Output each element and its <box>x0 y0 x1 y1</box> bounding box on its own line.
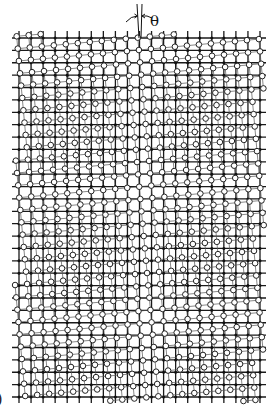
lattice-circle <box>202 240 208 246</box>
lattice-circle <box>26 32 32 38</box>
grid-node-dot <box>246 259 249 262</box>
lattice-circle <box>231 163 237 169</box>
grid-node-dot <box>78 235 81 238</box>
grid-node-dot <box>222 383 225 386</box>
lattice-circle <box>206 153 212 159</box>
grid-node-dot <box>198 136 201 139</box>
grid-node-dot <box>54 296 57 299</box>
lattice-circle <box>249 223 255 229</box>
lattice-circle <box>35 268 41 274</box>
grid-node-dot <box>42 136 45 139</box>
grid-node-dot <box>102 259 105 262</box>
lattice-circle <box>166 380 172 386</box>
grid-node-dot <box>66 210 69 213</box>
lattice-circle <box>207 165 213 171</box>
lattice-circle <box>63 178 69 184</box>
lattice-circle <box>22 393 28 399</box>
lattice-circle <box>97 150 103 156</box>
grid-node-dot <box>174 247 177 250</box>
lattice-circle <box>171 168 177 174</box>
lattice-circle <box>165 368 171 374</box>
lattice-circle <box>164 219 170 225</box>
lattice-circle <box>46 391 52 397</box>
grid-node-dot <box>186 86 189 89</box>
lattice-circle <box>259 198 265 204</box>
grid-node-dot <box>78 49 81 52</box>
grid-node-dot <box>198 358 201 361</box>
grid-node-dot <box>198 160 201 163</box>
lattice-circle <box>250 99 256 105</box>
lattice-circle <box>166 243 172 249</box>
lattice-circle <box>188 217 194 223</box>
grid-node-dot <box>102 98 105 101</box>
grid-node-dot <box>90 235 93 238</box>
grid-node-dot <box>259 98 262 101</box>
grid-node-dot <box>222 185 225 188</box>
lattice-circle <box>232 175 238 181</box>
lattice-circle <box>32 367 38 373</box>
lattice-circle <box>187 80 193 86</box>
grid-node-dot <box>90 334 93 337</box>
grid-node-dot <box>54 98 57 101</box>
grid-node-dot <box>186 37 189 40</box>
lattice-circle <box>177 230 183 236</box>
grid-node-dot <box>186 210 189 213</box>
grid-node-dot <box>78 284 81 287</box>
grid-node-dot <box>78 272 81 275</box>
lattice-circle <box>138 333 144 339</box>
grid-node-dot <box>246 247 249 250</box>
lattice-circle <box>52 316 58 322</box>
grid-node-dot <box>234 346 237 349</box>
grid-node-dot <box>18 148 21 151</box>
grid-node-dot <box>78 210 81 213</box>
grid-node-dot <box>54 111 57 114</box>
lattice-circle <box>202 103 208 109</box>
lattice-circle <box>257 310 263 316</box>
grid-node-dot <box>222 37 225 40</box>
lattice-circle <box>105 237 111 243</box>
lattice-circle <box>103 349 109 355</box>
lattice-circle <box>168 268 174 274</box>
lattice-circle <box>147 295 153 301</box>
grid-node-dot <box>198 49 201 52</box>
grid-node-dot <box>210 247 213 250</box>
grid-node-dot <box>186 247 189 250</box>
grid-node-dot <box>210 136 213 139</box>
grid-node-dot <box>78 160 81 163</box>
lattice-circle <box>73 152 79 158</box>
grid-node-dot <box>90 358 93 361</box>
grid-node-dot <box>150 111 153 114</box>
lattice-circle <box>136 308 142 314</box>
grid-node-dot <box>222 173 225 176</box>
lattice-circle <box>244 298 250 304</box>
grid-node-dot <box>54 74 57 77</box>
grid-node-dot <box>90 197 93 200</box>
lattice-circle <box>181 279 187 285</box>
grid-node-dot <box>138 123 141 126</box>
lattice-circle <box>46 254 52 260</box>
grid-node-dot <box>186 235 189 238</box>
lattice-circle <box>246 62 252 68</box>
grid-node-dot <box>54 284 57 287</box>
angle-rotated-line <box>141 4 142 38</box>
grid-node-dot <box>78 123 81 126</box>
lattice-circle <box>257 49 263 55</box>
lattice-circle <box>248 348 254 354</box>
lattice-circle <box>191 117 197 123</box>
lattice-circle <box>172 305 178 311</box>
lattice-circle <box>48 279 54 285</box>
lattice-circle <box>108 137 114 143</box>
grid-node-dot <box>210 371 213 374</box>
lattice-circle <box>57 241 63 247</box>
grid-node-dot <box>234 98 237 101</box>
grid-node-dot <box>78 37 81 40</box>
lattice-circle <box>139 345 145 351</box>
panel-label-partial: ) <box>0 391 2 407</box>
lattice-circle <box>126 73 132 79</box>
lattice-circle <box>204 389 210 395</box>
lattice-circle <box>153 95 159 101</box>
grid-node-dot <box>246 136 249 139</box>
lattice-circle <box>204 128 210 134</box>
grid-node-dot <box>102 358 105 361</box>
lattice-circle <box>28 194 34 200</box>
